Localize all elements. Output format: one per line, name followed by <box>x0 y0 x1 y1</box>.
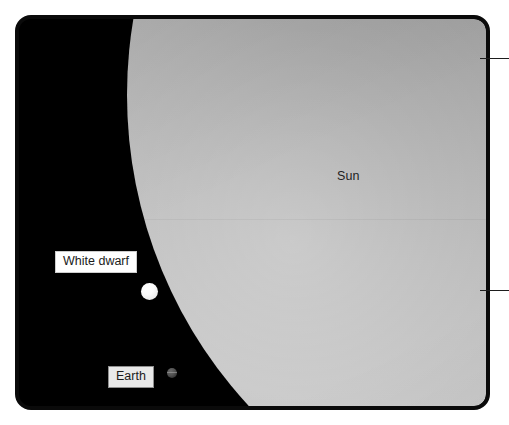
space-background: Sun White dwarf Earth <box>19 19 486 406</box>
sun-label: Sun <box>337 169 360 183</box>
sun-surface-seam <box>139 219 486 220</box>
earth-body <box>167 368 177 378</box>
illustration-panel: Sun White dwarf Earth <box>15 15 490 410</box>
figure-stage: Sun White dwarf Earth <box>0 0 509 425</box>
leader-line-top <box>480 58 509 59</box>
sun-shading-overlay <box>127 19 486 406</box>
leader-line-bottom <box>480 290 509 291</box>
white-dwarf-label: White dwarf <box>55 251 137 273</box>
earth-label: Earth <box>108 366 154 388</box>
white-dwarf-body <box>141 283 158 300</box>
earth-equator-band <box>167 372 177 373</box>
